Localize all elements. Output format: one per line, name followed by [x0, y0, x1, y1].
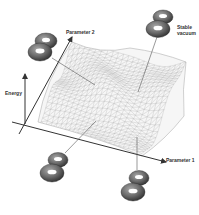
diagram-canvas: [0, 0, 199, 215]
energy-label: Energy: [5, 91, 22, 97]
parameter-1-label: Parameter 1: [166, 158, 195, 164]
torus-pair-bottom-right-icon: [121, 171, 149, 202]
torus-pair-bottom-left-icon: [40, 153, 68, 183]
stable-vacuum-label: Stable vacuum: [177, 25, 199, 36]
torus-pair-top-right-icon: [146, 10, 173, 38]
energy-landscape-diagram: Parameter 2 Stable vacuum Energy Paramet…: [0, 0, 199, 215]
torus-pair-top-left-icon: [28, 33, 57, 61]
parameter-2-label: Parameter 2: [66, 30, 95, 36]
